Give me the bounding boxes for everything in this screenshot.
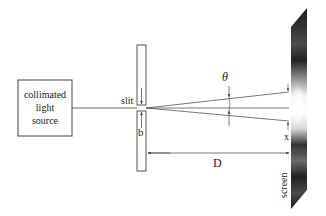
source-label-line-3: source	[32, 115, 59, 126]
source-label-line-2: light	[36, 102, 55, 113]
offset-label: x	[284, 131, 289, 142]
diffraction-diagram: collimated light source slit b θ x D	[0, 0, 326, 216]
light-source: collimated light source	[18, 80, 72, 136]
diffracted-rays	[146, 92, 289, 121]
slit-width-label: b	[138, 126, 144, 138]
slit-label: slit	[121, 95, 133, 106]
slit-barrier	[137, 45, 146, 171]
screen-label: screen	[278, 172, 289, 198]
source-label-line-1: collimated	[24, 89, 66, 100]
distance-label: D	[213, 156, 222, 170]
angle-label: θ	[222, 70, 228, 84]
angle-marker	[229, 86, 230, 126]
screen	[291, 8, 307, 209]
